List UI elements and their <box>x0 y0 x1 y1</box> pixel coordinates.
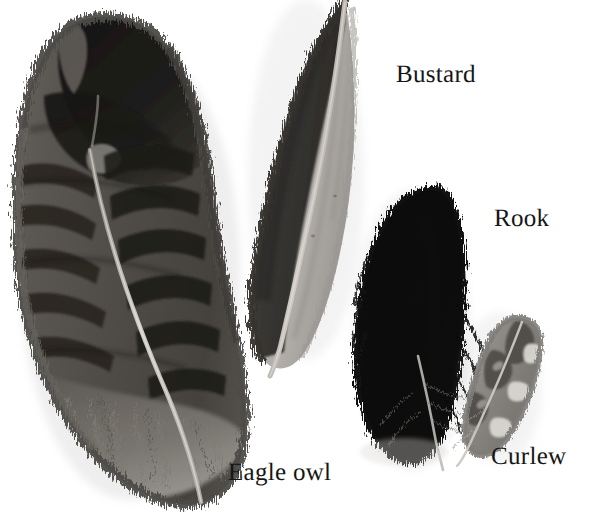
feather-plate-image: Bustard Rook Curlew Eagle owl <box>0 0 591 517</box>
label-rook: Rook <box>494 206 549 231</box>
label-bustard: Bustard <box>396 62 476 87</box>
label-eagle-owl: Eagle owl <box>228 460 331 485</box>
feather-illustration-layer <box>0 0 591 517</box>
label-curlew: Curlew <box>491 444 566 469</box>
